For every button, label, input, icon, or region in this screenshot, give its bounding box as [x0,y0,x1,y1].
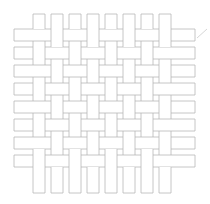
horizontal-strip-segment [135,101,159,113]
horizontal-strip-segment [81,119,105,131]
vertical-strip-segment [141,41,153,65]
vertical-strip-segment [69,113,81,137]
vertical-strip-segment [33,149,45,193]
vertical-strip-segment [87,131,99,155]
horizontal-strip-segment [63,137,87,149]
horizontal-strip-segment [14,47,33,59]
horizontal-strip-segment [14,137,51,149]
vertical-strip-segment [51,95,63,119]
vertical-strip-segment [69,41,81,65]
vertical-strip-segment [69,14,81,29]
vertical-strip-segment [69,149,81,193]
horizontal-strip-segment [14,29,51,41]
vertical-strip-segment [123,59,135,83]
horizontal-strip-segment [45,119,69,131]
vertical-strip-segment [87,167,99,193]
vertical-strip-segment [87,95,99,119]
vertical-strip-segment [159,167,171,193]
vertical-strip-segment [87,14,99,47]
vertical-strip-segment [33,77,45,101]
diagonal-tick-mark [197,29,207,38]
vertical-strip-segment [51,59,63,83]
horizontal-strip-segment [63,101,87,113]
vertical-strip-segment [141,77,153,101]
vertical-strip-segment [33,113,45,137]
horizontal-strip-segment [171,101,195,113]
horizontal-strip-segment [81,47,105,59]
horizontal-strip-segment [135,137,159,149]
weave-diagram [0,0,210,204]
vertical-strip-segment [33,14,45,29]
horizontal-strip-segment [135,65,159,77]
vertical-strip-segment [105,41,117,65]
vertical-strip-segment [159,14,171,47]
vertical-strip-segment [123,95,135,119]
horizontal-strip-segment [45,155,69,167]
vertical-strip-segment [105,113,117,137]
horizontal-strip-segment [171,65,195,77]
horizontal-strip-segment [99,137,123,149]
horizontal-strip-segment [99,65,123,77]
vertical-strip-segment [159,131,171,155]
artifact-layer [197,29,207,38]
vertical-strip-segment [141,14,153,29]
vertical-strip-segment [51,131,63,155]
horizontal-strip-segment [117,155,141,167]
horizontal-strip-segment [153,119,195,131]
horizontal-strip-segment [63,29,87,41]
vertical-strip-segment [51,167,63,193]
horizontal-strip-segment [153,155,195,167]
vertical-strip-segment [105,14,117,29]
horizontal-strip-segment [99,101,123,113]
vertical-strip-segment [159,95,171,119]
vertical-strip-segment [105,77,117,101]
horizontal-strip-segment [135,29,159,41]
horizontal-strip-segment [14,65,51,77]
horizontal-strip-segment [117,47,141,59]
horizontal-strip-segment [99,29,123,41]
horizontal-strip-segment [63,65,87,77]
horizontal-strip-segment [45,83,69,95]
vertical-strip-segment [141,113,153,137]
vertical-strip-segment [123,131,135,155]
horizontal-strip-segment [14,83,33,95]
horizontal-strip-segment [14,155,33,167]
vertical-strip-segment [159,59,171,83]
horizontal-strip-segment [171,29,195,41]
horizontal-strip-segment [81,83,105,95]
horizontal-strip-segment [153,47,195,59]
horizontal-strip-segment [153,83,195,95]
horizontal-strip-segment [14,101,51,113]
vertical-strip-segment [123,14,135,47]
vertical-strip-segment [69,77,81,101]
horizontal-strip-segment [117,119,141,131]
vertical-strip-segment [123,167,135,193]
horizontal-strip-segment [81,155,105,167]
horizontal-strip-segment [117,83,141,95]
horizontal-strip-segment [171,137,195,149]
vertical-strip-segment [105,149,117,193]
vertical-strip-segment [141,149,153,193]
vertical-strip-segment [87,59,99,83]
weave-layers [14,14,195,193]
vertical-strip-segment [33,41,45,65]
vertical-strip-segment [51,14,63,47]
pattern-canvas [0,0,210,204]
horizontal-strip-segment [45,47,69,59]
horizontal-strip-segment [14,119,33,131]
